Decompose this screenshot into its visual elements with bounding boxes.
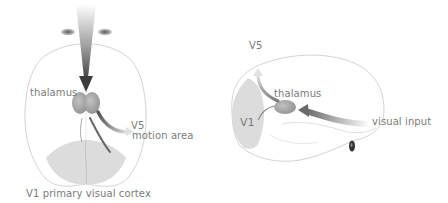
visual-pathway-diagram: thalamus V5 motion area V1 primary visua… [0,0,448,203]
side-view-brain [232,55,384,161]
side-thalamus-label: thalamus [274,89,321,99]
right-eye-icon [98,29,112,35]
top-thalamus-label: thalamus [30,88,77,98]
top-v1-label: V1 primary visual cortex [26,189,151,199]
side-v5-label: V5 [249,41,262,51]
top-motion-area-label: motion area [132,131,194,141]
visual-input-label: visual input [372,117,431,127]
diagram-canvas [0,0,448,203]
side-v1-label: V1 [240,117,255,128]
left-eye-icon [61,29,75,35]
